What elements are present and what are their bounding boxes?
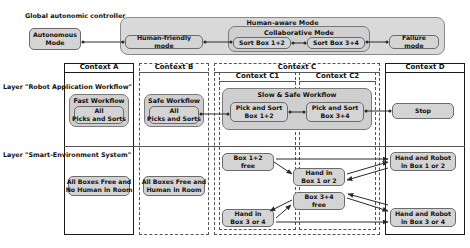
- all-boxes-free-human-node[interactable]: All Boxes Free and Human in Room: [143, 176, 205, 196]
- safe-workflow-all-picks-and-sorts-node[interactable]: All Picks and Sorts: [149, 106, 199, 124]
- context-c2-label: Context C2: [299, 72, 376, 80]
- context-c1-label: Context C1: [219, 72, 296, 80]
- pick-and-sort-box-34-node[interactable]: Pick and Sort Box 3+4: [306, 102, 364, 122]
- fast-workflow-all-picks-and-sorts-node[interactable]: All Picks and Sorts: [74, 106, 124, 124]
- pick-and-sort-box-12-node[interactable]: Pick and Sort Box 1+2: [230, 102, 288, 122]
- context-b-column: [139, 63, 209, 235]
- layer-robot-application-workflow-label: Layer "Robot Application Workflow": [3, 83, 132, 91]
- sort-box-34-node[interactable]: Sort Box 3+4: [307, 37, 365, 49]
- all-boxes-free-no-human-node[interactable]: All Boxes Free and No Human in Room: [68, 176, 130, 196]
- hand-and-robot-in-box-1-or-2-node[interactable]: Hand and Robot in Box 1 or 2: [390, 152, 456, 171]
- fast-workflow-title: Fast Workflow: [70, 95, 128, 105]
- box-34-free-node[interactable]: Box 3+4 free: [293, 192, 345, 210]
- failure-mode-node[interactable]: Failure mode: [389, 35, 439, 49]
- layer-smart-environment-system-label: Layer "Smart-Environment System": [3, 151, 131, 159]
- diagram-canvas: Global autonomic controller Human-aware …: [0, 0, 470, 248]
- context-c1-header: Context C1: [219, 72, 296, 82]
- global-autonomic-controller-label: Global autonomic controller: [25, 12, 125, 20]
- context-c2-header: Context C2: [299, 72, 376, 82]
- collaborative-mode-title: Collaborative Mode: [229, 27, 369, 37]
- slow-safe-workflow-title: Slow & Safe Workflow: [223, 89, 371, 99]
- human-friendly-mode-node[interactable]: Human-friendly mode: [125, 35, 203, 49]
- hand-in-box-1-or-2-node[interactable]: Hand in Box 1 or 2: [293, 168, 345, 186]
- safe-workflow-title: Safe Workflow: [145, 95, 203, 105]
- hand-and-robot-in-box-3-or-4-node[interactable]: Hand and Robot in Box 3 or 4: [390, 208, 456, 227]
- hand-in-box-3-or-4-node[interactable]: Hand in Box 3 or 4: [222, 209, 274, 227]
- layer-divider: [64, 146, 465, 147]
- stop-node[interactable]: Stop: [392, 103, 454, 119]
- autonomous-mode-node[interactable]: Autonomous Mode: [29, 28, 81, 50]
- box-12-free-node[interactable]: Box 1+2 free: [222, 153, 274, 171]
- sort-box-12-node[interactable]: Sort Box 1+2: [233, 37, 291, 49]
